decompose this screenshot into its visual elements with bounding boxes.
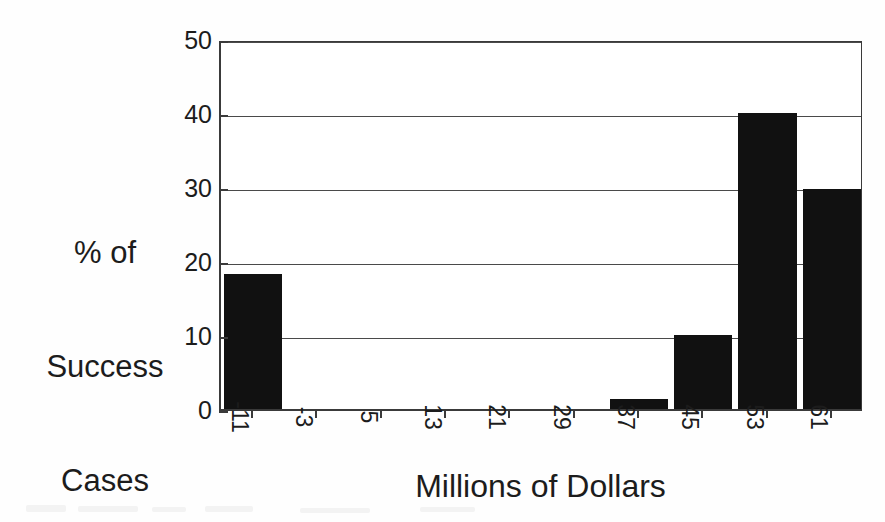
x-tick-label-21: 21	[485, 404, 508, 430]
x-tick-label-61: 61	[807, 404, 830, 430]
scan-artifact	[152, 507, 186, 512]
y-tick-mark-0	[219, 411, 228, 413]
y-axis-title-line-1: % of	[30, 234, 180, 272]
scan-artifact	[420, 507, 475, 512]
gridline-y-50	[221, 42, 861, 43]
y-tick-label-50: 50	[168, 28, 212, 53]
y-axis-title-line-2: Success	[30, 348, 180, 386]
scan-artifact	[205, 506, 253, 512]
y-tick-mark-20	[219, 263, 228, 265]
x-axis-title: Millions of Dollars	[219, 468, 862, 504]
y-tick-mark-30	[219, 189, 228, 191]
x-tick-label-45: 45	[678, 404, 701, 430]
x-tick-label--3: -3	[292, 407, 315, 427]
y-tick-mark-10	[219, 337, 228, 339]
x-tick-label-37: 37	[614, 404, 637, 430]
x-tick-label-53: 53	[743, 404, 766, 430]
y-tick-label-40: 40	[168, 102, 212, 127]
x-tick-label-13: 13	[421, 404, 444, 430]
y-axis-title-line-3: Cases	[30, 462, 180, 500]
bar-61	[803, 189, 861, 409]
scan-artifact	[78, 506, 138, 512]
plot-area	[219, 41, 862, 411]
bar-45	[674, 335, 732, 409]
bar--11	[224, 274, 282, 409]
x-axis-tick-labels: -11-3513212937455361	[219, 411, 862, 471]
y-tick-mark-50	[219, 41, 228, 43]
x-tick-label-5: 5	[357, 411, 380, 424]
scan-artifact	[26, 505, 66, 512]
y-tick-label-30: 30	[168, 176, 212, 201]
y-tick-label-0: 0	[168, 398, 212, 423]
y-tick-label-20: 20	[168, 250, 212, 275]
scan-artifact	[300, 508, 370, 513]
y-tick-mark-40	[219, 115, 228, 117]
y-tick-label-10: 10	[168, 324, 212, 349]
chart-page: % of Success Cases 01020304050 -11-35132…	[0, 0, 885, 522]
y-axis-tick-labels: 01020304050	[160, 41, 212, 411]
y-axis-title: % of Success Cases	[30, 158, 180, 522]
x-tick-label--11: -11	[228, 401, 251, 433]
bar-53	[738, 113, 796, 409]
x-tick-label-29: 29	[550, 404, 573, 430]
